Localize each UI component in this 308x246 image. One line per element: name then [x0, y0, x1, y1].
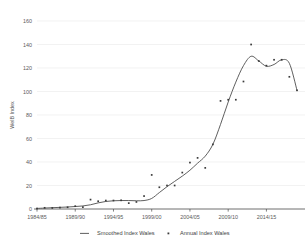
annual-index-point	[59, 207, 61, 209]
y-tick-label: 160	[23, 18, 32, 24]
annual-index-point	[174, 185, 176, 187]
y-tick-label: 140	[23, 42, 32, 48]
line-scatter-chart: 020406080100120140160 1984/851989/901994…	[0, 0, 308, 246]
annual-index-point	[120, 199, 122, 201]
x-axis-tick-labels: 1984/851989/901994/951999/002004/052009/…	[27, 214, 276, 220]
annual-index-point	[273, 59, 275, 61]
annual-index-point	[166, 185, 168, 187]
annual-index-point	[227, 99, 229, 101]
x-tick-label: 2004/05	[180, 214, 200, 220]
y-tick-label: 60	[26, 136, 32, 142]
x-tick-label: 2014/15	[257, 214, 277, 220]
chart-legend: Smoothed Index WalesAnnual Index Wales	[80, 230, 230, 236]
annual-index-point	[36, 208, 38, 210]
annual-index-point	[67, 206, 69, 208]
x-axis-line	[34, 209, 305, 212]
annual-index-point	[181, 172, 183, 174]
y-tick-label: 20	[26, 183, 32, 189]
annual-index-point	[90, 199, 92, 201]
annual-index-point	[82, 206, 84, 208]
annual-index-point	[151, 174, 153, 176]
gridlines	[37, 21, 305, 186]
annual-index-point	[128, 202, 130, 204]
y-axis-title-text: WelB Index	[9, 101, 15, 129]
annual-index-point	[235, 99, 237, 101]
annual-index-point	[189, 162, 191, 164]
annual-index-point	[44, 207, 46, 209]
x-tick-label: 1989/90	[65, 214, 85, 220]
annual-index-point	[74, 205, 76, 207]
annual-index-point	[250, 44, 252, 46]
annual-index-point	[143, 195, 145, 197]
annual-index-point	[97, 200, 99, 202]
annual-index-point	[105, 200, 107, 202]
annual-index-point	[51, 207, 53, 209]
annual-index-point	[197, 157, 199, 159]
y-axis-title: WelB Index	[9, 101, 15, 129]
data-series	[36, 44, 298, 210]
legend-item-label: Annual Index Wales	[180, 230, 230, 236]
annual-index-point	[296, 89, 298, 91]
annual-index-point	[113, 200, 115, 202]
x-tick-label: 1994/95	[104, 214, 124, 220]
annual-index-point	[281, 59, 283, 61]
annual-index-point	[258, 60, 260, 62]
annual-index-point	[204, 167, 206, 169]
annual-index-point	[243, 81, 245, 83]
y-tick-label: 40	[26, 159, 32, 165]
y-tick-label: 120	[23, 65, 32, 71]
x-tick-label: 2009/10	[218, 214, 238, 220]
annual-index-point	[136, 201, 138, 203]
annual-index-point	[220, 100, 222, 102]
chart-container: 020406080100120140160 1984/851989/901994…	[0, 0, 308, 246]
annual-index-point	[266, 65, 268, 67]
annual-index-point	[289, 76, 291, 78]
y-tick-label: 100	[23, 89, 32, 95]
y-axis-tick-labels: 020406080100120140160	[23, 18, 32, 212]
x-tick-label: 1999/00	[142, 214, 162, 220]
y-tick-label: 0	[29, 206, 32, 212]
x-tick-label: 1984/85	[27, 214, 47, 220]
legend-item-label: Smoothed Index Wales	[97, 230, 155, 236]
annual-index-point	[159, 186, 161, 188]
annual-index-point	[212, 144, 214, 146]
y-tick-label: 80	[26, 112, 32, 118]
legend-marker-swatch	[168, 233, 170, 235]
